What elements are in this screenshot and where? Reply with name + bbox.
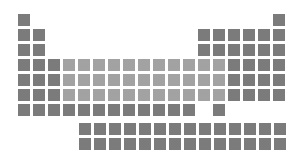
- transition-metal-cell: [108, 89, 120, 101]
- f-block-cell: [214, 123, 226, 135]
- element-cell: [213, 104, 225, 116]
- transition-metal-cell: [198, 89, 210, 101]
- transition-metal-cell: [153, 74, 165, 86]
- element-cell: [273, 59, 285, 71]
- transition-metal-cell: [183, 74, 195, 86]
- element-cell: [33, 104, 45, 116]
- transition-metal-cell: [78, 74, 90, 86]
- f-block-cell: [229, 138, 241, 150]
- transition-metal-cell: [123, 74, 135, 86]
- element-cell: [243, 44, 255, 56]
- element-cell: [183, 104, 195, 116]
- f-block-cell: [154, 138, 166, 150]
- f-block-cell: [184, 123, 196, 135]
- f-block-cell: [154, 123, 166, 135]
- element-cell: [273, 89, 285, 101]
- element-cell: [168, 104, 180, 116]
- f-block-cell: [124, 123, 136, 135]
- transition-metal-cell: [138, 59, 150, 71]
- f-block-cell: [169, 123, 181, 135]
- periodic-table-graphic: [0, 0, 301, 162]
- transition-metal-cell: [183, 89, 195, 101]
- transition-metal-cell: [183, 59, 195, 71]
- element-cell: [228, 44, 240, 56]
- element-cell: [18, 59, 30, 71]
- element-cell: [258, 89, 270, 101]
- element-cell: [48, 104, 60, 116]
- element-cell: [243, 89, 255, 101]
- element-cell: [123, 104, 135, 116]
- element-cell: [258, 44, 270, 56]
- element-cell: [273, 74, 285, 86]
- element-cell: [213, 44, 225, 56]
- f-block-cell: [244, 138, 256, 150]
- element-cell: [243, 74, 255, 86]
- element-cell: [243, 59, 255, 71]
- transition-metal-cell: [153, 59, 165, 71]
- f-block-cell: [79, 138, 91, 150]
- transition-metal-cell: [168, 74, 180, 86]
- element-cell: [78, 104, 90, 116]
- transition-metal-cell: [93, 89, 105, 101]
- element-cell: [273, 44, 285, 56]
- f-block-cell: [139, 123, 151, 135]
- f-block-cell: [109, 138, 121, 150]
- transition-metal-cell: [213, 74, 225, 86]
- element-cell: [33, 89, 45, 101]
- element-cell: [18, 44, 30, 56]
- element-cell: [48, 74, 60, 86]
- element-cell: [198, 29, 210, 41]
- element-cell: [273, 29, 285, 41]
- element-cell: [273, 14, 285, 26]
- transition-metal-cell: [123, 89, 135, 101]
- element-cell: [18, 29, 30, 41]
- element-cell: [243, 29, 255, 41]
- f-block-cell: [244, 123, 256, 135]
- transition-metal-cell: [108, 74, 120, 86]
- element-cell: [18, 104, 30, 116]
- transition-metal-cell: [63, 59, 75, 71]
- element-cell: [33, 59, 45, 71]
- f-block-cell: [199, 138, 211, 150]
- f-block-cell: [259, 123, 271, 135]
- f-block-cell: [79, 123, 91, 135]
- transition-metal-cell: [168, 89, 180, 101]
- transition-metal-cell: [198, 59, 210, 71]
- element-cell: [258, 29, 270, 41]
- f-block-cell: [214, 138, 226, 150]
- f-block-cell: [274, 123, 286, 135]
- element-cell: [18, 14, 30, 26]
- transition-metal-cell: [198, 74, 210, 86]
- element-cell: [93, 104, 105, 116]
- element-cell: [48, 59, 60, 71]
- transition-metal-cell: [153, 89, 165, 101]
- element-cell: [258, 59, 270, 71]
- transition-metal-cell: [123, 59, 135, 71]
- f-block-cell: [139, 138, 151, 150]
- element-cell: [228, 59, 240, 71]
- f-block-cell: [259, 138, 271, 150]
- transition-metal-cell: [168, 59, 180, 71]
- element-cell: [18, 89, 30, 101]
- element-cell: [198, 44, 210, 56]
- transition-metal-cell: [63, 74, 75, 86]
- element-cell: [228, 89, 240, 101]
- element-cell: [153, 104, 165, 116]
- element-cell: [18, 74, 30, 86]
- element-cell: [108, 104, 120, 116]
- element-cell: [48, 89, 60, 101]
- f-block-cell: [109, 123, 121, 135]
- transition-metal-cell: [78, 59, 90, 71]
- transition-metal-cell: [213, 89, 225, 101]
- element-cell: [228, 74, 240, 86]
- element-cell: [33, 44, 45, 56]
- element-cell: [33, 29, 45, 41]
- f-block-cell: [184, 138, 196, 150]
- transition-metal-cell: [78, 89, 90, 101]
- element-cell: [33, 74, 45, 86]
- element-cell: [228, 29, 240, 41]
- element-cell: [63, 104, 75, 116]
- transition-metal-cell: [138, 89, 150, 101]
- f-block-cell: [169, 138, 181, 150]
- f-block-cell: [199, 123, 211, 135]
